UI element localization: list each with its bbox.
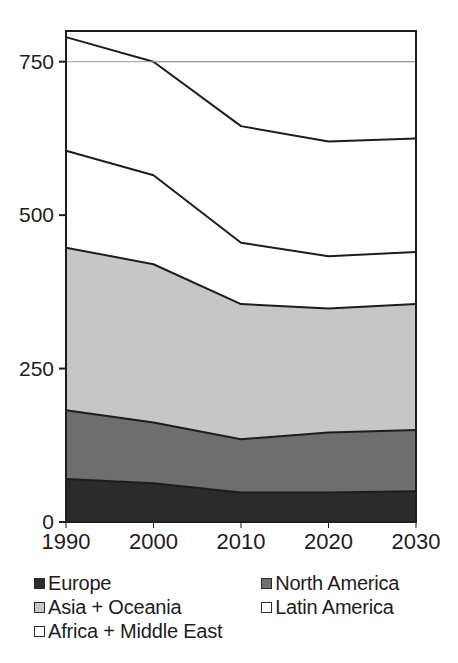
legend-item-latin-america[interactable]: Latin America [261, 596, 444, 619]
filled-square-icon [34, 602, 45, 613]
y-tick-label: 250 [19, 357, 54, 380]
legend-label: Africa + Middle East [48, 620, 222, 643]
y-axis-ticks: 0250500750 [19, 50, 66, 533]
legend-row: Europe North America [34, 572, 444, 595]
x-tick-label: 1990 [42, 529, 91, 554]
legend-label: Asia + Oceania [48, 596, 181, 619]
filled-square-icon [261, 578, 272, 589]
legend-label: North America [275, 572, 399, 595]
x-tick-label: 2000 [129, 529, 178, 554]
filled-square-icon [34, 578, 45, 589]
empty-square-icon [34, 626, 45, 637]
x-axis-ticks: 19902000201020202030 [42, 522, 441, 554]
legend-item-asia-oceania[interactable]: Asia + Oceania [34, 596, 261, 619]
legend-item-africa-middle-east[interactable]: Africa + Middle East [34, 620, 270, 643]
chart-legend: Europe North America Asia + Oceania Lati… [34, 572, 444, 644]
legend-item-north-america[interactable]: North America [261, 572, 444, 595]
legend-row: Asia + Oceania Latin America [34, 596, 444, 619]
y-tick-label: 500 [19, 203, 54, 226]
y-tick-label: 750 [19, 50, 54, 73]
legend-row: Africa + Middle East [34, 620, 444, 643]
x-tick-label: 2030 [392, 529, 441, 554]
legend-item-europe[interactable]: Europe [34, 572, 261, 595]
chart-canvas: 0250500750 19902000201020202030 [0, 0, 458, 663]
x-tick-label: 2010 [217, 529, 266, 554]
x-tick-label: 2020 [304, 529, 353, 554]
empty-square-icon [261, 602, 272, 613]
legend-label: Europe [48, 572, 111, 595]
legend-label: Latin America [275, 596, 394, 619]
stacked-area-chart: 0250500750 19902000201020202030 Europe N… [0, 0, 458, 663]
